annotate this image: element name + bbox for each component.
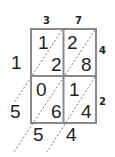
result-digit-3: 5 xyxy=(33,125,44,144)
result-digit-4: 4 xyxy=(66,125,77,144)
result-digit-2: 5 xyxy=(10,102,21,121)
cell-1-tens: 1 xyxy=(38,33,49,52)
lattice-grid xyxy=(0,0,115,157)
cell-1-ones: 2 xyxy=(51,55,62,74)
cell-3-ones: 6 xyxy=(51,102,62,121)
cell-2-tens: 2 xyxy=(67,33,78,52)
cell-2-ones: 8 xyxy=(81,55,92,74)
right-factor-digit-1: 4 xyxy=(99,45,106,56)
cell-3-tens: 0 xyxy=(36,80,47,99)
result-digit-1: 1 xyxy=(11,53,22,72)
cell-4-tens: 1 xyxy=(69,80,80,99)
top-factor-digit-1: 3 xyxy=(43,15,50,26)
cell-4-ones: 4 xyxy=(81,102,92,121)
right-factor-digit-2: 2 xyxy=(99,96,106,107)
top-factor-digit-2: 7 xyxy=(75,15,82,26)
